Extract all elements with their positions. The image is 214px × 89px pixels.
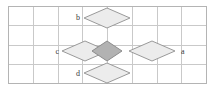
diamond-bottom [84, 63, 130, 83]
label-c: c [55, 47, 59, 56]
label-d: d [76, 69, 80, 78]
diamond-right [129, 41, 175, 61]
lattice-diagram-figure: bcad [0, 0, 214, 89]
diamond-center [92, 41, 122, 61]
label-a: a [181, 47, 185, 56]
diagram-canvas: bcad [0, 0, 214, 89]
label-b: b [76, 13, 80, 22]
